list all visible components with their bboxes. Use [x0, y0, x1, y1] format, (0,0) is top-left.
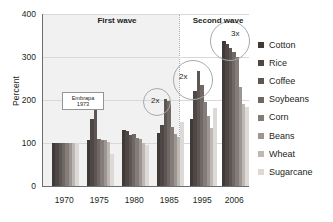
legend-item-coffee[interactable]: Coffee [258, 72, 333, 90]
callout-circle-2006 [210, 21, 250, 61]
legend-label: Coffee [269, 77, 295, 86]
bar-sugarcane-1985 [180, 122, 184, 186]
legend-swatch-icon-rice [258, 60, 264, 66]
legend-swatch-icon-corn [258, 115, 264, 121]
x-tick-1970: 1970 [44, 195, 84, 205]
legend-item-rice[interactable]: Rice [258, 54, 333, 72]
callout-1995-label: 2x [179, 72, 187, 81]
legend-label: Rice [269, 59, 287, 68]
legend-label: Sugarcane [269, 168, 313, 177]
legend-label: Cotton [269, 41, 296, 50]
legend-swatch-icon-sugarcane [258, 169, 264, 175]
y-tick-200: 200 [10, 96, 36, 104]
legend-item-soybeans[interactable]: Soybeans [258, 91, 333, 109]
y-axis-ticks: 400 300 200 100 0 [8, 0, 36, 222]
legend-label: Beans [269, 132, 295, 141]
bar-sugarcane-2006 [245, 107, 249, 186]
y-tick-400: 400 [10, 10, 36, 18]
legend-label: Corn [269, 113, 289, 122]
legend-item-wheat[interactable]: Wheat [258, 145, 333, 163]
legend-swatch-icon-cotton [258, 42, 264, 48]
plot-area: Embrapa 1973 2x 2x 3x [42, 14, 249, 187]
callout-2006-label: 3x [231, 29, 239, 38]
legend-item-beans[interactable]: Beans [258, 127, 333, 145]
bar-sugarcane-1980 [145, 145, 149, 186]
x-tick-1980: 1980 [114, 195, 154, 205]
callout-1985-label: 2x [151, 96, 159, 105]
x-tick-2006: 2006 [214, 195, 254, 205]
legend-item-sugarcane[interactable]: Sugarcane [258, 163, 333, 181]
embrapa-note-line2: 1973 [66, 101, 100, 107]
bar-chart: Percent 400 300 200 100 0 Embrapa 1973 2… [0, 0, 333, 222]
y-tick-0: 0 [10, 182, 36, 190]
legend-label: Soybeans [269, 95, 309, 104]
y-tick-300: 300 [10, 53, 36, 61]
legend: CottonRiceCoffeeSoybeansCornBeansWheatSu… [258, 36, 333, 182]
x-tick-1975: 1975 [79, 195, 119, 205]
embrapa-note: Embrapa 1973 [62, 92, 104, 110]
legend-swatch-icon-wheat [258, 151, 264, 157]
second-wave-label: Second wave [178, 16, 258, 25]
legend-item-corn[interactable]: Corn [258, 109, 333, 127]
bar-sugarcane-1970 [75, 143, 79, 186]
first-wave-label: First wave [82, 16, 152, 25]
legend-swatch-icon-coffee [258, 78, 264, 84]
bar-sugarcane-1995 [213, 108, 217, 186]
y-tick-100: 100 [10, 139, 36, 147]
legend-swatch-icon-beans [258, 133, 264, 139]
legend-label: Wheat [269, 150, 295, 159]
bar-sugarcane-1975 [110, 154, 114, 186]
legend-item-cotton[interactable]: Cotton [258, 36, 333, 54]
legend-swatch-icon-soybeans [258, 97, 264, 103]
